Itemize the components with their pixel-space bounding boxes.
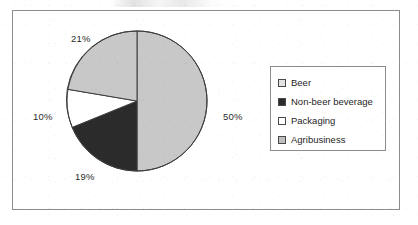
legend-label-packaging: Packaging [291,116,335,126]
pie-value-label-beer: 50% [223,111,243,122]
legend-item-non-beer-beverage: Non-beer beverage [278,92,385,111]
legend-swatch-icon-agribusiness [278,136,286,144]
legend-swatch-icon-packaging [278,117,286,125]
legend-label-non-beer-beverage: Non-beer beverage [291,97,373,107]
pie-value-label-non-beer-beverage: 19% [75,171,95,182]
legend: Beer Non-beer beverage Packaging Agribus… [270,66,386,151]
pie-svg [66,30,208,172]
chart-frame: 21% 10% 19% 50% Beer Non-beer beverage P… [12,10,400,210]
pie-value-label-agribusiness: 21% [71,33,91,44]
legend-label-beer: Beer [291,78,311,88]
legend-swatch-icon-non-beer-beverage [278,98,286,106]
pie-slice-beer [137,31,207,171]
legend-item-packaging: Packaging [278,111,385,130]
legend-item-agribusiness: Agribusiness [278,130,385,149]
scan-artifact [110,0,240,7]
legend-item-beer: Beer [278,73,385,92]
pie-value-label-packaging: 10% [33,111,53,122]
legend-label-agribusiness: Agribusiness [291,135,345,145]
legend-swatch-icon-beer [278,79,286,87]
